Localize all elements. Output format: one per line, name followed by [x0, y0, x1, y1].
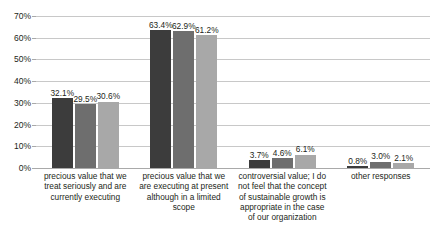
cutoff-title-sliver: ............................ — [6, 0, 176, 3]
bar[interactable]: 4.6% — [272, 158, 293, 168]
bar[interactable]: 63.4% — [150, 30, 171, 168]
category-label: precious value that we are executing at … — [138, 171, 231, 212]
bar[interactable]: 3.7% — [249, 160, 270, 168]
plot-area: 0%10%20%30%40%50%60%70% 32.1%29.5%30.6%6… — [36, 16, 430, 168]
y-axis-tick-label: 40% — [14, 76, 31, 86]
bar-value-label: 61.2% — [195, 26, 219, 34]
bar-group: 3.7%4.6%6.1% — [249, 16, 316, 168]
bar[interactable]: 2.1% — [393, 163, 414, 168]
bar[interactable]: 29.5% — [75, 104, 96, 168]
y-axis-tick-mark — [32, 168, 36, 169]
bar-value-label: 30.6% — [96, 92, 120, 100]
bar-value-label: 3.0% — [371, 152, 390, 160]
bar-group: 0.8%3.0%2.1% — [347, 16, 414, 168]
y-axis-tick-label: 70% — [14, 11, 31, 21]
bar-group: 32.1%29.5%30.6% — [52, 16, 119, 168]
category-label: other responses — [335, 171, 428, 181]
y-axis-tick-label: 10% — [14, 141, 31, 151]
category-axis-labels: precious value that we treat seriously a… — [36, 171, 430, 227]
bar[interactable]: 62.9% — [173, 31, 194, 168]
chart-screenshot: ............................ 0%10%20%30%… — [0, 0, 441, 227]
y-axis-tick-label: 60% — [14, 33, 31, 43]
bar[interactable]: 0.8% — [347, 166, 368, 168]
category-label: precious value that we treat seriously a… — [39, 171, 132, 202]
bar-value-label: 0.8% — [348, 157, 367, 165]
y-axis-tick-label: 50% — [14, 54, 31, 64]
gridline — [36, 168, 430, 169]
bar-value-label: 3.7% — [250, 151, 269, 159]
bar-value-label: 4.6% — [273, 149, 292, 157]
y-axis-tick-label: 30% — [14, 98, 31, 108]
bar[interactable]: 32.1% — [52, 98, 73, 168]
bar-value-label: 62.9% — [172, 22, 196, 30]
bar[interactable]: 3.0% — [370, 162, 391, 169]
bar-group: 63.4%62.9%61.2% — [150, 16, 217, 168]
bar-value-label: 2.1% — [394, 154, 413, 162]
bar-groups: 32.1%29.5%30.6%63.4%62.9%61.2%3.7%4.6%6.… — [36, 16, 430, 168]
category-label: controversial value; I do not feel that … — [236, 171, 329, 222]
bar-value-label: 63.4% — [149, 21, 173, 29]
y-axis-tick-label: 0% — [19, 163, 31, 173]
bar-value-label: 29.5% — [73, 95, 97, 103]
bar[interactable]: 6.1% — [295, 155, 316, 168]
bar-value-label: 32.1% — [50, 89, 74, 97]
bar-value-label: 6.1% — [296, 145, 315, 153]
bar[interactable]: 61.2% — [196, 35, 217, 168]
bar[interactable]: 30.6% — [98, 102, 119, 168]
y-axis-tick-label: 20% — [14, 120, 31, 130]
